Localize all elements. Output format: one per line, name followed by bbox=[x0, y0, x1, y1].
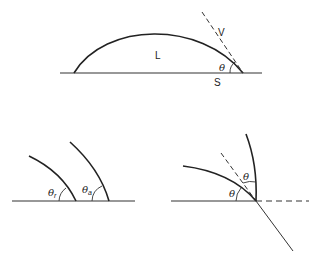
liquid-label: L bbox=[155, 50, 161, 61]
wetting-diagram: L V θ S θr θa θ θ bbox=[0, 0, 319, 258]
receding-angle-label: θr bbox=[48, 187, 57, 199]
liquid-profile-high bbox=[246, 134, 256, 201]
edge-panel: θ θ bbox=[171, 134, 309, 251]
upper-angle-label: θ bbox=[243, 171, 249, 182]
contact-angle-label: θ bbox=[219, 62, 225, 73]
vapor-label: V bbox=[218, 27, 225, 38]
advancing-angle-arc bbox=[92, 186, 102, 201]
receding-angle-arc bbox=[59, 188, 66, 201]
advancing-angle-label: θa bbox=[82, 184, 92, 196]
solid-label: S bbox=[214, 77, 221, 88]
hysteresis-panel: θr θa bbox=[12, 142, 135, 201]
sessile-drop-panel: L V θ S bbox=[60, 12, 262, 88]
lower-angle-arc bbox=[236, 188, 241, 201]
lower-angle-label: θ bbox=[229, 188, 235, 199]
edge-face-line bbox=[256, 201, 293, 251]
dashed-tangent bbox=[221, 153, 256, 201]
